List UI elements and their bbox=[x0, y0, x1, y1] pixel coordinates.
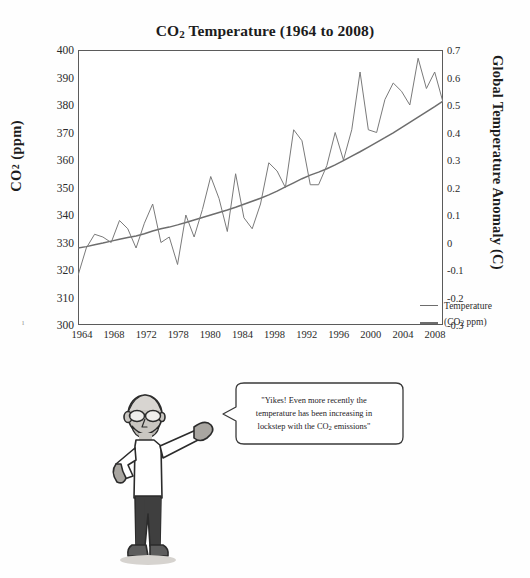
y-axis-left-title: CO2 (ppm) bbox=[8, 120, 32, 192]
y-tick-right-neg0p1: -0.1 bbox=[447, 265, 477, 276]
y-tick-left-340: 340 bbox=[40, 209, 74, 221]
y-tick-right-0p6: 0.6 bbox=[447, 72, 477, 83]
legend-item-temperature: Temperature bbox=[420, 298, 520, 313]
chart-title-pre: CO bbox=[156, 22, 179, 39]
y-tick-left-320: 320 bbox=[40, 264, 74, 276]
co2-temperature-chart: CO2 Temperature (1964 to 2008) CO2 (ppm)… bbox=[0, 0, 530, 358]
y-tick-right-0: 0 bbox=[447, 237, 477, 248]
leg-right-icon bbox=[151, 498, 161, 546]
chart-title: CO2 Temperature (1964 to 2008) bbox=[0, 22, 530, 40]
y-tick-left-360: 360 bbox=[40, 154, 74, 166]
shirt-icon bbox=[134, 440, 162, 498]
legend-swatch-co2 bbox=[420, 322, 438, 324]
legend-label-temperature: Temperature bbox=[444, 301, 492, 311]
y-tick-right-0p1: 0.1 bbox=[447, 210, 477, 221]
y-axis-left-title-post: (ppm) bbox=[8, 120, 24, 164]
y-tick-left-330: 330 bbox=[40, 237, 74, 249]
y-tick-right-0p7: 0.7 bbox=[447, 45, 477, 56]
y-axis-left-ticks: 400390380370360350340330320310300 bbox=[38, 50, 74, 325]
speech-bubble-text: "Yikes! Even more recently the temperatu… bbox=[234, 394, 394, 434]
y-axis-left-title-pre: CO bbox=[8, 169, 24, 192]
leg-left-icon bbox=[136, 498, 145, 546]
y-tick-left-400: 400 bbox=[40, 44, 74, 56]
legend-label-co2: (CO2 ppm) bbox=[444, 317, 487, 328]
y-tick-left-310: 310 bbox=[40, 292, 74, 304]
y-tick-left-390: 390 bbox=[40, 72, 74, 84]
shoe-left-icon bbox=[128, 545, 148, 556]
y-tick-left-370: 370 bbox=[40, 127, 74, 139]
cartoon-illustration: "Yikes! Even more recently the temperatu… bbox=[0, 358, 530, 578]
hairline-icon bbox=[129, 395, 161, 410]
speech-line-3-pre: lockstep with the CO bbox=[258, 422, 329, 431]
y-axis-right-ticks: 0.70.60.50.40.30.20.10-0.1-0.2-0.3 bbox=[447, 50, 477, 325]
y-axis-left-title-subscript: 2 bbox=[10, 164, 21, 169]
y-tick-right-0p3: 0.3 bbox=[447, 155, 477, 166]
y-tick-right-0p5: 0.5 bbox=[447, 100, 477, 111]
y-tick-left-380: 380 bbox=[40, 99, 74, 111]
speech-line-3: lockstep with the CO2 emissions" bbox=[234, 420, 394, 434]
speech-bubble: "Yikes! Even more recently the temperatu… bbox=[222, 381, 406, 449]
chart-title-post: Temperature (1964 to 2008) bbox=[185, 22, 374, 39]
speech-line-2: temperature has been increasing in bbox=[234, 407, 394, 420]
plot-area: Temperature (CO2 ppm) bbox=[78, 50, 443, 325]
glasses-left-lens-icon bbox=[130, 411, 145, 422]
man-pointing-figure bbox=[108, 386, 238, 576]
glasses-right-lens-icon bbox=[146, 411, 161, 422]
hand-pointing-icon bbox=[194, 422, 213, 440]
y-tick-right-0p2: 0.2 bbox=[447, 182, 477, 193]
speech-line-1: "Yikes! Even more recently the bbox=[234, 394, 394, 407]
chart-legend: Temperature (CO2 ppm) bbox=[420, 298, 520, 332]
co2-line-series bbox=[78, 101, 443, 248]
legend-label-co2-post: ppm) bbox=[464, 317, 486, 327]
legend-item-co2: (CO2 ppm) bbox=[420, 315, 520, 330]
y-tick-left-350: 350 bbox=[40, 182, 74, 194]
shoe-right-icon bbox=[150, 545, 168, 556]
y-tick-right-0p4: 0.4 bbox=[447, 127, 477, 138]
figure-page: CO2 Temperature (1964 to 2008) CO2 (ppm)… bbox=[0, 0, 530, 578]
ground-shadow-icon bbox=[120, 555, 176, 565]
speech-line-3-post: emissions" bbox=[332, 422, 371, 431]
x-axis-ticks: 1964196819721978198019841998199219962000… bbox=[78, 329, 443, 347]
stray-mark: ı bbox=[22, 318, 24, 327]
legend-swatch-temperature bbox=[420, 305, 438, 306]
legend-label-co2-pre: (CO bbox=[444, 317, 460, 327]
plot-lines bbox=[78, 50, 443, 325]
y-axis-right-title: Global Temperature Anomaly (C) bbox=[482, 55, 506, 270]
temperature-line-series bbox=[78, 58, 443, 275]
